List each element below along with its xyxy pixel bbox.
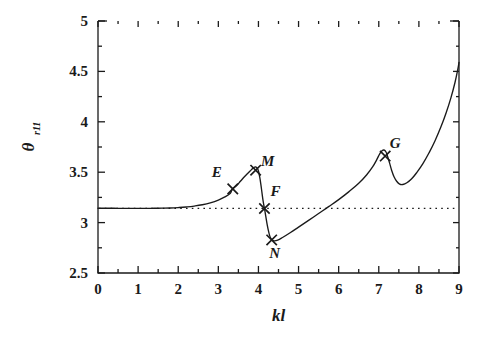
point-label-G: G	[390, 135, 401, 151]
y-tick-label: 4	[81, 114, 89, 130]
x-tick-label: 0	[94, 281, 102, 297]
x-tick-label: 8	[415, 281, 423, 297]
cross-marker-icon	[228, 184, 238, 194]
x-tick-label: 9	[455, 281, 463, 297]
x-tick-label: 4	[255, 281, 263, 297]
data-point-marker-N	[266, 235, 276, 245]
x-tick-label: 7	[375, 281, 383, 297]
cross-marker-icon	[380, 151, 390, 161]
y-tick-label: 2.5	[69, 265, 88, 281]
data-point-marker-E	[228, 184, 238, 194]
x-tick-label: 3	[215, 281, 223, 297]
chart-plot-area: 01234567892.533.544.55EMFNGklθr11	[0, 0, 483, 345]
x-tick-label: 2	[174, 281, 182, 297]
y-tick-label: 3.5	[69, 164, 88, 180]
cross-marker-icon	[266, 235, 276, 245]
point-label-F: F	[269, 183, 280, 199]
point-label-N: N	[268, 245, 281, 261]
axis-frame	[98, 21, 459, 273]
x-axis-title: kl	[272, 306, 286, 325]
data-point-marker-G	[380, 151, 390, 161]
chart-figure: 01234567892.533.544.55EMFNGklθr11	[0, 0, 483, 345]
y-axis-title: θr11	[19, 122, 42, 152]
x-tick-label: 5	[295, 281, 303, 297]
x-tick-label: 6	[335, 281, 343, 297]
y-tick-label: 5	[81, 13, 89, 29]
x-tick-label: 1	[134, 281, 142, 297]
y-tick-label: 4.5	[69, 63, 88, 79]
y-axis-title-subscript: r11	[31, 122, 42, 135]
data-curve	[98, 62, 459, 241]
point-label-E: E	[211, 164, 222, 180]
point-label-M: M	[260, 153, 275, 169]
y-tick-label: 3	[81, 215, 89, 231]
y-axis-title-theta: θ	[19, 142, 38, 151]
